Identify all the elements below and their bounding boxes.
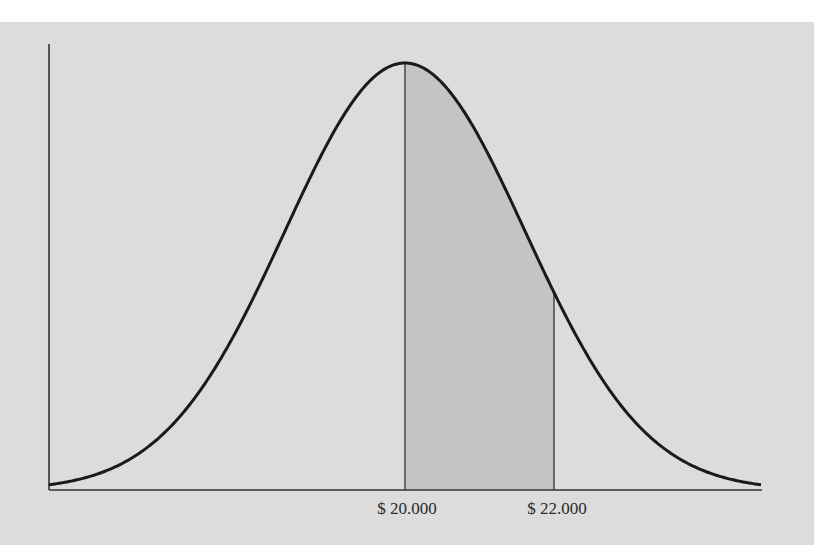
shaded-probability-area [405,63,554,490]
x-tick-label-upper-bound: $ 22.000 [527,499,587,518]
x-tick-label-mean: $ 20.000 [377,499,437,518]
normal-distribution-chart: $ 20.000 $ 22.000 [0,0,814,545]
